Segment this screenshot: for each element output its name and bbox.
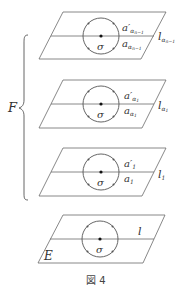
plane-alpha-n-1: σ a′αn−1 aαn−1 lαn−1 (39, 12, 175, 59)
svg-text:aα1: aα1 (124, 105, 137, 118)
svg-text:a′αn−1: a′αn−1 (122, 22, 144, 35)
plane-alpha-1: σ a′α1 aα1 lα1 (39, 80, 168, 128)
family-label: F (7, 100, 18, 115)
svg-text:lαn−1: lαn−1 (158, 30, 175, 44)
svg-text:a1: a1 (124, 173, 134, 185)
center-point (99, 170, 102, 173)
sigma-label: σ (97, 109, 105, 120)
base-plane-label: E (43, 249, 53, 263)
center-point (98, 237, 101, 240)
family-brace: F (7, 35, 28, 200)
center-point (99, 34, 102, 37)
figure-caption: 図 4 (86, 275, 106, 286)
svg-text:lα1: lα1 (158, 99, 168, 113)
svg-text:a′α1: a′α1 (124, 90, 139, 103)
figure-4-diagram: F σ a′αn−1 aαn−1 lαn−1 σ a′α1 aα1 lα1 σ (0, 0, 190, 295)
center-point (99, 102, 102, 105)
line-label: l (138, 225, 142, 238)
sigma-label: σ (97, 41, 105, 52)
svg-text:a′1: a′1 (124, 158, 136, 170)
plane-1: σ a′1 a1 l1 (39, 148, 166, 196)
svg-text:l1: l1 (158, 168, 165, 181)
svg-text:aαn−1: aαn−1 (122, 38, 142, 51)
sigma-label: σ (96, 244, 104, 255)
sigma-label: σ (97, 177, 105, 188)
plane-base-e: σ l E (38, 215, 165, 263)
